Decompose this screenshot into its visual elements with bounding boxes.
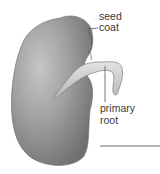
bean-seed-diagram: seed coat primary root: [0, 0, 160, 174]
primary-root-label-line1: primary: [100, 103, 135, 114]
seed-body: [12, 16, 93, 165]
primary-root-label-line2: root: [100, 115, 118, 126]
bean-seed-illustration: [0, 0, 160, 174]
seed-coat-label-line2: coat: [99, 22, 119, 33]
